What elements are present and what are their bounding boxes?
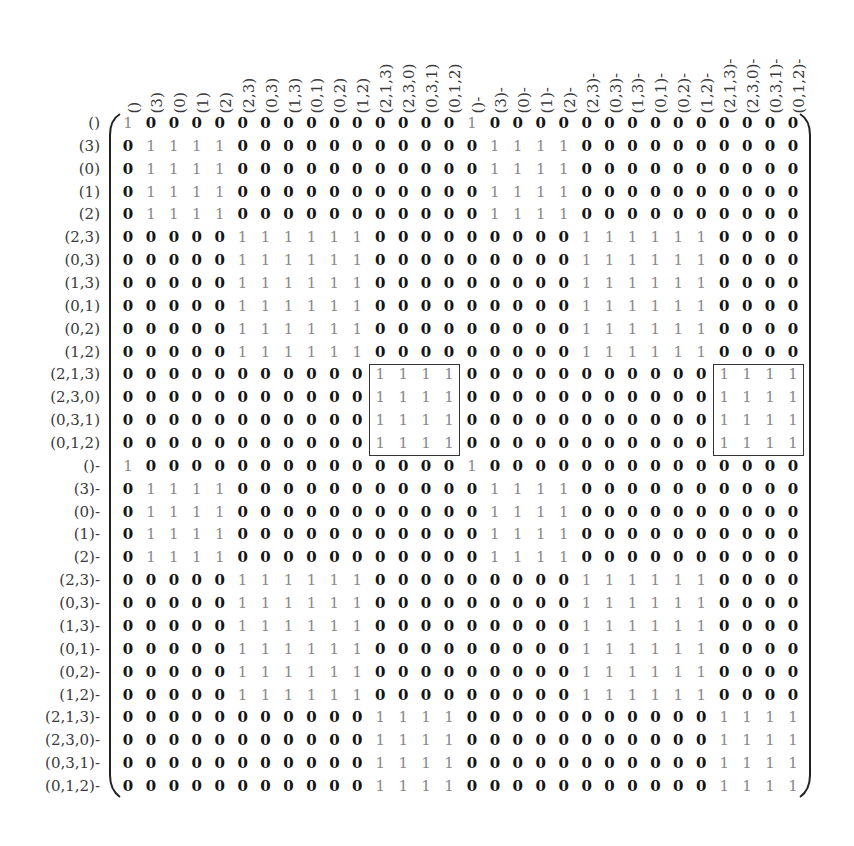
left-paren	[110, 114, 120, 797]
matrix-figure: ()(3)(0)(1)(2)(2,3)(0,3)(1,3)(0,1)(0,2)(…	[0, 0, 854, 846]
right-paren	[800, 114, 810, 797]
matrix-brackets	[0, 0, 854, 846]
